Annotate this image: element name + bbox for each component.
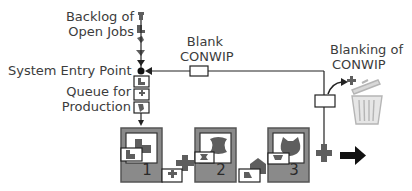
station-2-number: 2 bbox=[211, 161, 231, 179]
blanking-conwip-line2: CONWIP bbox=[330, 57, 403, 72]
blank-conwip-line2: CONWIP bbox=[180, 49, 230, 64]
station-1-number: 1 bbox=[137, 161, 157, 179]
entry-point-node bbox=[138, 68, 145, 75]
entry-point-label: System Entry Point bbox=[8, 63, 132, 78]
blanking-conwip-label: Blanking of CONWIP bbox=[330, 42, 403, 72]
backlog-label-line2: Open Jobs bbox=[66, 24, 134, 39]
queue-label-line2: Production bbox=[62, 99, 131, 114]
output-arrow-icon bbox=[340, 146, 366, 165]
production-queue bbox=[134, 76, 149, 113]
queue-label-line1: Queue for bbox=[62, 84, 131, 99]
blank-conwip-line1: Blank bbox=[180, 34, 230, 49]
backlog-label-line1: Backlog of bbox=[66, 9, 134, 24]
blanking-conwip-line1: Blanking of bbox=[330, 42, 403, 57]
queue-label: Queue for Production bbox=[62, 84, 131, 114]
blank-conwip-label: Blank CONWIP bbox=[180, 34, 230, 64]
backlog-label: Backlog of Open Jobs bbox=[66, 9, 134, 39]
conwip-card-at-exit bbox=[315, 95, 335, 107]
trash-can-icon bbox=[352, 80, 382, 124]
blank-conwip-card bbox=[190, 66, 208, 76]
station-3-number: 3 bbox=[284, 161, 304, 179]
